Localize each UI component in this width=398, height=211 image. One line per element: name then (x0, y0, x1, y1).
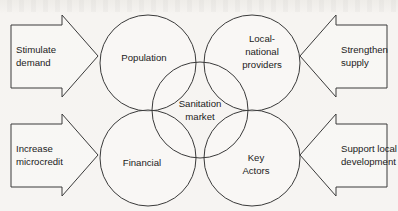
circle-key-actors-line2: Actors (242, 165, 269, 176)
arrow-stimulate-demand-line2: demand (16, 57, 51, 68)
arrow-strengthen-supply-line1: Strengthen (341, 44, 388, 55)
arrow-support-local-development: Support local development (300, 114, 397, 196)
diagram-graphic: Stimulate demand Strengthen supply Incre… (0, 0, 398, 211)
circle-key-actors: Key Actors (204, 110, 300, 206)
arrow-increase-microcredit-line2: microcredit (16, 156, 63, 167)
circle-population-label: Population (121, 52, 166, 63)
arrow-support-local-development-line2: development (341, 156, 396, 167)
circle-sanitation-market-line1: Sanitation (179, 98, 222, 109)
arrow-stimulate-demand: Stimulate demand (11, 15, 98, 97)
arrow-strengthen-supply: Strengthen supply (300, 15, 388, 97)
arrow-stimulate-demand-line1: Stimulate (16, 44, 56, 55)
arrow-support-local-development-line1: Support local (341, 143, 397, 154)
circle-financial: Financial (100, 110, 196, 206)
arrow-increase-microcredit: Increase microcredit (11, 114, 98, 196)
arrow-increase-microcredit-line1: Increase (16, 143, 53, 154)
circle-key-actors-line1: Key (248, 152, 265, 163)
arrow-strengthen-supply-line2: supply (341, 57, 369, 68)
circle-local-national-providers-line1: Local- (249, 33, 275, 44)
circle-local-national-providers-line2: national (245, 46, 279, 57)
circle-sanitation-market: Sanitation market (152, 62, 248, 158)
circle-financial-label: Financial (123, 157, 161, 168)
circle-local-national-providers-line3: providers (242, 59, 282, 70)
diagram-canvas: Stimulate demand Strengthen supply Incre… (0, 0, 398, 211)
circle-sanitation-market-line2: market (185, 111, 215, 122)
